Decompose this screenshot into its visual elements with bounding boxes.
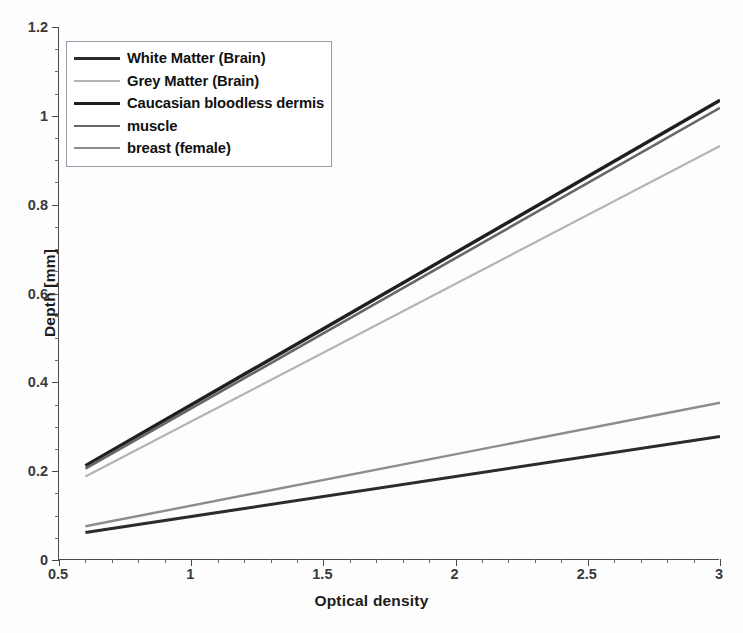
x-axis-minor-tick xyxy=(667,559,668,563)
y-axis-minor-tick xyxy=(55,71,59,72)
legend-item[interactable]: Grey Matter (Brain) xyxy=(74,70,324,93)
x-tick-label: 3 xyxy=(715,566,723,582)
x-axis-minor-tick xyxy=(535,559,536,563)
series-line xyxy=(85,403,720,526)
x-tick-label: 2.5 xyxy=(577,566,597,582)
y-axis-tick xyxy=(52,205,59,206)
x-axis-minor-tick xyxy=(244,559,245,563)
x-tick-label: 1 xyxy=(186,566,194,582)
y-axis-tick xyxy=(52,27,59,28)
x-axis-minor-tick xyxy=(641,559,642,563)
x-axis-minor-tick xyxy=(271,559,272,563)
x-axis-tick xyxy=(191,559,192,566)
x-axis-minor-tick xyxy=(694,559,695,563)
x-axis-minor-tick xyxy=(218,559,219,563)
x-axis-tick xyxy=(323,559,324,566)
legend-item[interactable]: White Matter (Brain) xyxy=(74,47,324,70)
y-tick-label: 0.6 xyxy=(2,286,48,302)
y-axis-minor-tick xyxy=(55,94,59,95)
legend-label: muscle xyxy=(127,118,177,134)
x-tick-label: 0.5 xyxy=(48,566,68,582)
series-line xyxy=(85,437,720,533)
y-axis-minor-tick xyxy=(55,449,59,450)
y-axis-minor-tick xyxy=(55,316,59,317)
x-axis-tick xyxy=(59,559,60,566)
x-tick-label: 2 xyxy=(451,566,459,582)
y-axis-minor-tick xyxy=(55,427,59,428)
y-tick-label: 1.2 xyxy=(2,19,48,35)
y-axis-minor-tick xyxy=(55,360,59,361)
y-axis-minor-tick xyxy=(55,227,59,228)
x-axis-minor-tick xyxy=(482,559,483,563)
y-axis-minor-tick xyxy=(55,49,59,50)
legend-label: Caucasian bloodless dermis xyxy=(127,95,324,111)
x-tick-label: 1.5 xyxy=(312,566,332,582)
figure-canvas: Depth [mm] Optical density 00.20.40.60.8… xyxy=(0,0,743,633)
x-axis-minor-tick xyxy=(403,559,404,563)
legend-swatch-grey-matter-brain xyxy=(74,80,120,82)
legend-box: White Matter (Brain) Grey Matter (Brain)… xyxy=(66,41,332,167)
x-axis-minor-tick xyxy=(138,559,139,563)
y-tick-label: 1 xyxy=(2,108,48,124)
y-axis-minor-tick xyxy=(55,493,59,494)
x-axis-minor-tick xyxy=(614,559,615,563)
series-line xyxy=(85,146,720,476)
x-axis-tick xyxy=(588,559,589,566)
x-axis-title: Optical density xyxy=(0,592,743,610)
y-axis-minor-tick xyxy=(55,538,59,539)
y-axis-minor-tick xyxy=(55,405,59,406)
y-axis-tick xyxy=(52,116,59,117)
y-tick-label: 0 xyxy=(2,552,48,568)
legend-item[interactable]: breast (female) xyxy=(74,137,324,160)
y-axis-tick xyxy=(52,560,59,561)
legend-label: Grey Matter (Brain) xyxy=(127,73,259,89)
legend-swatch-white-matter-brain xyxy=(74,57,120,60)
x-axis-minor-tick xyxy=(508,559,509,563)
x-axis-minor-tick xyxy=(350,559,351,563)
x-axis-minor-tick xyxy=(85,559,86,563)
y-axis-minor-tick xyxy=(55,160,59,161)
legend-label: White Matter (Brain) xyxy=(127,50,266,66)
x-axis-minor-tick xyxy=(165,559,166,563)
y-axis-tick xyxy=(52,471,59,472)
y-axis-tick xyxy=(52,382,59,383)
y-axis-minor-tick xyxy=(55,182,59,183)
y-axis-minor-tick xyxy=(55,249,59,250)
x-axis-minor-tick xyxy=(429,559,430,563)
legend-item[interactable]: Caucasian bloodless dermis xyxy=(74,92,324,115)
y-tick-label: 0.8 xyxy=(2,197,48,213)
x-axis-minor-tick xyxy=(297,559,298,563)
legend-item[interactable]: muscle xyxy=(74,115,324,138)
x-axis-minor-tick xyxy=(112,559,113,563)
x-axis-minor-tick xyxy=(376,559,377,563)
legend-swatch-caucasian-bloodless-dermis xyxy=(74,102,120,105)
y-tick-label: 0.2 xyxy=(2,463,48,479)
y-tick-label: 0.4 xyxy=(2,374,48,390)
y-axis-minor-tick xyxy=(55,516,59,517)
y-axis-minor-tick xyxy=(55,338,59,339)
y-axis-minor-tick xyxy=(55,271,59,272)
x-axis-tick xyxy=(456,559,457,566)
legend-swatch-breast-female xyxy=(74,147,120,149)
y-axis-tick xyxy=(52,294,59,295)
legend-swatch-muscle xyxy=(74,125,120,127)
legend-label: breast (female) xyxy=(127,140,231,156)
x-axis-minor-tick xyxy=(561,559,562,563)
x-axis-tick xyxy=(720,559,721,566)
y-axis-minor-tick xyxy=(55,138,59,139)
